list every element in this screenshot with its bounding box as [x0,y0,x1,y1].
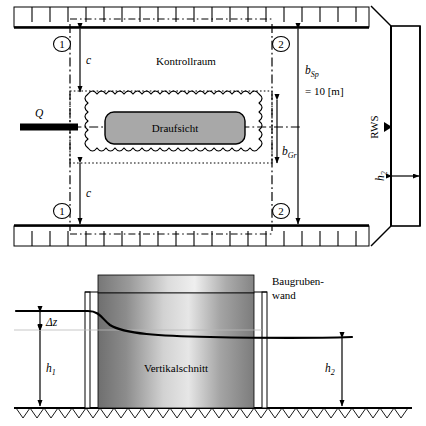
rws-label: RWS [368,115,380,138]
section-marker-1-bottom: 1 [54,204,71,219]
wall-callout-line2: wand [272,289,296,301]
dimension-delta-z-label: Δz [45,316,58,328]
dimension-bsp-value: = 10 [m] [305,85,344,97]
ground-hatching [16,408,408,418]
dimension-bgr-label: bGr [282,145,298,160]
section-body-shape [98,293,254,408]
figure-root: Draufsicht Kontrollraum Q c c bSp = 10 [… [0,0,426,426]
bottom-bank-wall [14,226,369,247]
excavation-wall-left [85,292,90,408]
section-marker-2-bottom-label: 2 [278,205,284,217]
engineering-diagram: Draufsicht Kontrollraum Q c c bSp = 10 [… [0,0,426,426]
control-volume-label: Kontrollraum [156,55,216,67]
section-marker-1-top-label: 1 [59,38,65,50]
dimension-h2-section-label: h2 [325,362,335,377]
section-marker-1-bottom-label: 1 [59,205,65,217]
dimension-c-top-label: c [86,54,91,66]
section-marker-2-top-label: 2 [278,38,284,50]
side-panel-group: RWS h2 [368,6,420,246]
section-marker-1-top: 1 [54,37,71,52]
dimension-bsp-label: bSp [305,64,319,79]
dimension-h1-label: h1 [46,362,56,377]
section-body-label: Vertikalschnitt [144,362,208,374]
discharge-label: Q [35,107,44,119]
plan-view-group: Draufsicht Kontrollraum Q c c bSp = 10 [… [14,7,369,246]
section-marker-2-top: 2 [273,37,290,52]
side-depth-label: h2 [374,171,389,181]
section-body-top [98,275,254,293]
section-marker-2-bottom: 2 [273,204,290,219]
plan-body-label: Draufsicht [152,122,198,134]
dimension-c-bottom-label: c [86,187,91,199]
wall-callout-line1: Baugruben- [272,275,324,287]
top-bank-wall [14,7,369,28]
section-view-group: Vertikalschnitt Δz h1 h2 Baugruben- wand [14,275,412,418]
excavation-wall-right [262,292,267,408]
